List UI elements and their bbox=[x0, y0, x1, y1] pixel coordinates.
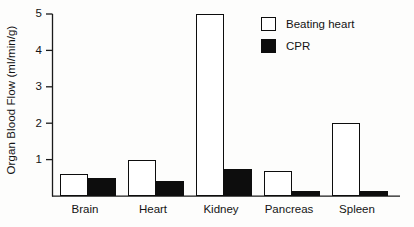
legend-swatch-filled-square-icon bbox=[261, 39, 276, 53]
bar-heart-beating-heart bbox=[128, 160, 156, 196]
bar-spleen-cpr bbox=[360, 191, 388, 196]
chart-legend: Beating heart CPR bbox=[261, 13, 354, 57]
legend-label-beating-heart: Beating heart bbox=[286, 18, 354, 30]
legend-item-cpr: CPR bbox=[261, 35, 354, 57]
bar-chart-figure: Organ Blood Flow (ml/min/g) 5 4 3 2 1 bbox=[0, 0, 414, 227]
bar-kidney-beating-heart bbox=[196, 14, 224, 196]
bar-kidney-cpr bbox=[224, 169, 252, 196]
bar-group-brain bbox=[60, 14, 122, 196]
x-category-label-spleen: Spleen bbox=[320, 203, 394, 216]
bar-brain-cpr bbox=[88, 178, 116, 196]
bar-pancreas-cpr bbox=[292, 191, 320, 196]
y-tick-label-3: 3 bbox=[26, 81, 42, 93]
bar-pancreas-beating-heart bbox=[264, 171, 292, 196]
bar-spleen-beating-heart bbox=[332, 123, 360, 196]
y-tick-label-1: 1 bbox=[26, 154, 42, 166]
bar-group-kidney bbox=[196, 14, 258, 196]
bar-group-heart bbox=[128, 14, 190, 196]
y-tick-label-2: 2 bbox=[26, 118, 42, 130]
legend-label-cpr: CPR bbox=[286, 40, 310, 52]
y-tick-label-4: 4 bbox=[26, 45, 42, 57]
x-category-label-brain: Brain bbox=[48, 203, 122, 216]
legend-swatch-open-square-icon bbox=[261, 17, 276, 31]
bar-brain-beating-heart bbox=[60, 174, 88, 196]
x-category-label-heart: Heart bbox=[116, 203, 190, 216]
x-category-label-kidney: Kidney bbox=[184, 203, 258, 216]
bar-heart-cpr bbox=[156, 181, 184, 196]
y-tick-label-5: 5 bbox=[26, 8, 42, 20]
x-category-label-pancreas: Pancreas bbox=[252, 203, 326, 216]
legend-item-beating-heart: Beating heart bbox=[261, 13, 354, 35]
